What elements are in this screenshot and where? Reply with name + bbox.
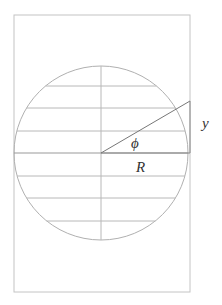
- label-phi: ϕ: [131, 136, 139, 151]
- angled-radius-line: [101, 101, 190, 153]
- label-R: R: [136, 160, 145, 175]
- label-y: y: [202, 116, 209, 131]
- circle-diagram: [0, 0, 222, 305]
